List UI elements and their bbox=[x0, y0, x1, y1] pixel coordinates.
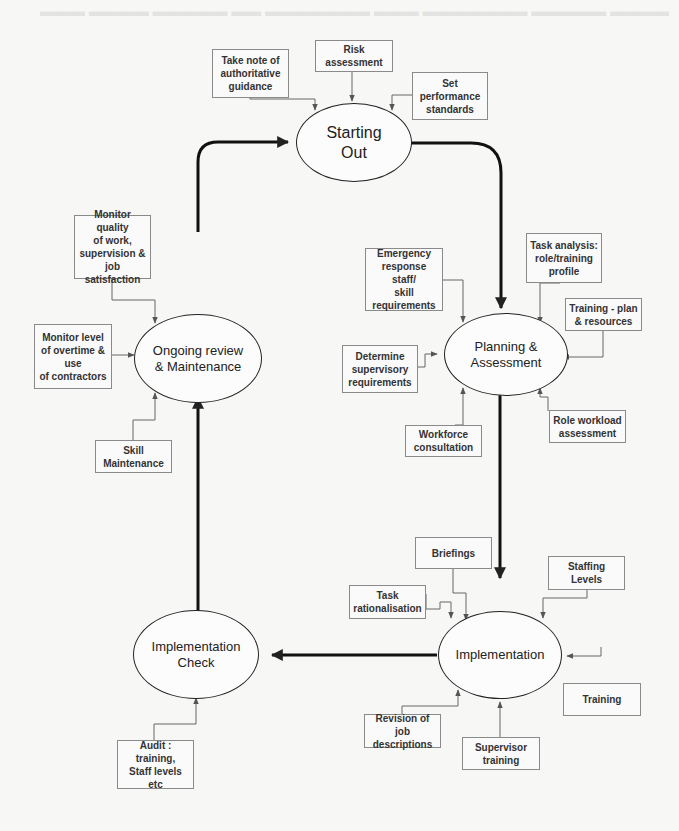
input-staffing-levels: Staffing Levels bbox=[548, 556, 625, 590]
input-monitor-overtime: Monitor level of overtime & use of contr… bbox=[34, 324, 112, 389]
input-briefings: Briefings bbox=[415, 537, 492, 569]
input-emergency-response: Emergency response staff/ skill requirem… bbox=[365, 248, 443, 311]
input-training: Training bbox=[563, 683, 641, 716]
input-supervisor-training: Supervisor training bbox=[462, 737, 540, 770]
stage-ongoing-review[interactable]: Ongoing review & Maintenance bbox=[134, 314, 262, 403]
input-role-workload: Role workload assessment bbox=[549, 410, 626, 443]
input-audit: Audit : training, Staff levels etc bbox=[117, 740, 194, 789]
input-performance-standards: Set performance standards bbox=[412, 72, 488, 120]
input-skill-maintenance: Skill Maintenance bbox=[95, 440, 172, 473]
stage-starting-out[interactable]: Starting Out bbox=[296, 103, 412, 182]
input-supervisory-requirements: Determine supervisory requirements bbox=[342, 345, 418, 393]
input-monitor-quality: Monitor quality of work, supervision & j… bbox=[74, 215, 151, 279]
stage-implementation[interactable]: Implementation bbox=[438, 611, 562, 699]
stage-implementation-check[interactable]: Implementation Check bbox=[133, 610, 259, 699]
input-task-rationalisation: Task rationalisation bbox=[349, 585, 426, 619]
input-authoritative-guidance: Take note of authoritative guidance bbox=[212, 49, 289, 98]
input-revision-job-descriptions: Revision of job descriptions bbox=[364, 714, 441, 748]
stage-planning-assessment[interactable]: Planning & Assessment bbox=[444, 313, 568, 396]
input-workforce-consultation: Workforce consultation bbox=[405, 425, 482, 457]
input-risk-assessment: Risk assessment bbox=[315, 40, 393, 72]
main-flow-arrows bbox=[198, 142, 501, 655]
input-training-plan: Training - plan & resources bbox=[565, 298, 642, 331]
input-task-analysis: Task analysis: role/training profile bbox=[526, 233, 602, 283]
